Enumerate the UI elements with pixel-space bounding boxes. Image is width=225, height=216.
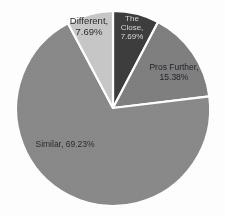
- pie-chart: Different, 7.69% The Close, 7.69% Pros F…: [0, 0, 225, 216]
- pie-chart-canvas: [0, 0, 225, 216]
